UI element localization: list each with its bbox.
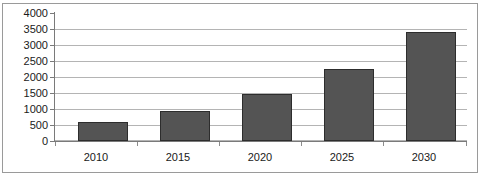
bar-2015	[160, 111, 210, 141]
plot-area	[55, 13, 467, 141]
x-axis-tick	[55, 142, 56, 146]
x-axis-tick	[383, 142, 384, 146]
x-axis-tick	[301, 142, 302, 146]
bar-2025	[324, 69, 374, 141]
y-axis-label: 3000	[4, 40, 48, 51]
y-axis-label: 1500	[4, 88, 48, 99]
x-axis-tick	[219, 142, 220, 146]
bar-2010	[78, 122, 128, 141]
y-axis-label: 2500	[4, 56, 48, 67]
x-axis-label-2015: 2015	[137, 152, 219, 163]
y-axis-labels: 4000 3500 3000 2500 2000 1500 1000 500 0	[0, 0, 48, 178]
x-axis-tick	[466, 142, 467, 146]
y-axis-label: 4000	[4, 8, 48, 19]
y-axis-label: 0	[4, 136, 48, 147]
x-axis-label-2025: 2025	[301, 152, 383, 163]
x-axis-tick	[137, 142, 138, 146]
gridline	[55, 29, 467, 30]
y-axis-label: 500	[4, 120, 48, 131]
y-axis-label: 2000	[4, 72, 48, 83]
x-axis-label-2020: 2020	[219, 152, 301, 163]
y-axis-label: 3500	[4, 24, 48, 35]
bar-2030	[406, 32, 456, 141]
x-axis-label-2010: 2010	[55, 152, 137, 163]
x-axis-label-2030: 2030	[383, 152, 465, 163]
y-axis-label: 1000	[4, 104, 48, 115]
bar-chart: 4000 3500 3000 2500 2000 1500 1000 500 0	[0, 0, 482, 178]
bar-2020	[242, 94, 292, 141]
x-axis-line	[55, 141, 467, 142]
